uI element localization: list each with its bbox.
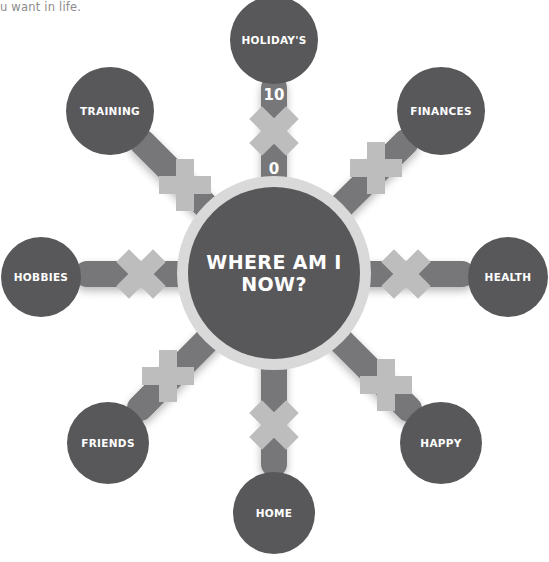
caption-block: …things, or each of the areas… u want in… [0, 0, 230, 14]
node-training[interactable] [66, 67, 154, 155]
node-holidays[interactable] [230, 0, 318, 84]
caption-line: u want in life. [0, 0, 230, 14]
node-health[interactable] [468, 237, 548, 317]
center-hub [177, 176, 371, 370]
node-home[interactable] [233, 472, 315, 554]
node-happy[interactable] [400, 402, 482, 484]
center-hub-fill [188, 187, 360, 359]
node-hobbies[interactable] [1, 237, 81, 317]
wheel-of-life-diagram: HOLIDAY'S FINANCES HEALTH HAPPY HOME FRI… [0, 0, 549, 562]
wheel-svg [0, 0, 549, 562]
node-friends[interactable] [67, 402, 149, 484]
node-finances[interactable] [397, 67, 485, 155]
